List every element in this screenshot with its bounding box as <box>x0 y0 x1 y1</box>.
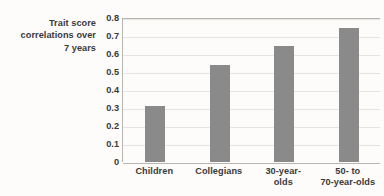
x-axis-label-line-1: 70-year-olds <box>316 177 381 188</box>
x-axis-label: 30-year-olds <box>251 166 316 189</box>
y-tick-label: 0.2 <box>96 121 119 131</box>
x-axis-label-line-1: olds <box>251 177 316 188</box>
bar-slot <box>317 19 382 162</box>
bars-layer <box>123 19 380 162</box>
x-axis-label: 50- to70-year-olds <box>316 166 381 189</box>
bar <box>210 65 230 162</box>
x-axis-label-line-0: 30-year- <box>251 166 316 177</box>
y-axis-title: Trait scorecorrelations over7 years <box>4 17 96 54</box>
y-tick-label: 0.3 <box>96 103 119 113</box>
bar-chart: Trait scorecorrelations over7 years 0.80… <box>0 0 384 196</box>
x-axis-label-line-0: 50- to <box>316 166 381 177</box>
y-axis-title-line-2: 7 years <box>4 42 96 54</box>
x-axis-label: Collegians <box>187 166 252 177</box>
bar <box>145 106 165 162</box>
y-tick-label: 0 <box>96 157 119 167</box>
x-axis-label-line-0: Collegians <box>187 166 252 177</box>
y-tick-label: 0.6 <box>96 49 119 59</box>
y-axis-tick-labels: 0.80.70.60.50.40.30.20.10 <box>96 13 119 162</box>
y-tick-label: 0.7 <box>96 31 119 41</box>
bar <box>339 28 359 162</box>
bar-slot <box>252 19 317 162</box>
y-axis-title-line-0: Trait score <box>4 17 96 29</box>
y-tick-label: 0.4 <box>96 85 119 95</box>
axis-baseline <box>123 163 380 164</box>
plot-area <box>122 18 380 162</box>
y-tick-label: 0.1 <box>96 139 119 149</box>
bar-slot <box>188 19 253 162</box>
bar <box>274 46 294 162</box>
y-axis-title-line-1: correlations over <box>4 29 96 41</box>
y-tick-label: 0.5 <box>96 67 119 77</box>
x-axis-label-line-0: Children <box>122 166 187 177</box>
x-axis-label: Children <box>122 166 187 177</box>
bar-slot <box>123 19 188 162</box>
y-tick-label: 0.8 <box>96 13 119 23</box>
x-axis-category-labels: ChildrenCollegians30-year-olds50- to70-y… <box>122 166 380 196</box>
